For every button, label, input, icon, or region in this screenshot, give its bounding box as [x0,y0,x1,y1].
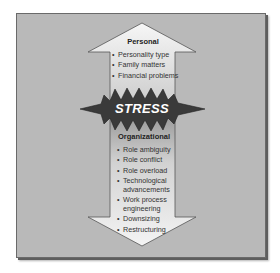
personal-heading: Personal [113,38,173,47]
organizational-heading: Organizational [113,133,175,142]
organizational-list: Role ambiguity Role conflict Role overlo… [117,146,175,235]
list-item: Financial problems [112,72,173,81]
list-item: Personality type [112,51,173,60]
item-text: Restructuring [123,225,166,234]
list-item: Role overload [117,167,175,176]
list-item: Role conflict [117,156,175,165]
list-item: Technologicaladvancements [117,177,175,194]
list-item: Role ambiguity [117,146,175,155]
stress-label: STRESS [100,101,184,116]
list-item: Family matters [112,61,173,70]
item-text: Downsizing [123,214,160,223]
item-text: Role overload [123,166,167,175]
personal-list: Personality type Family matters Financia… [112,51,173,81]
list-item: Restructuring [117,226,175,235]
organizational-group: Organizational Role ambiguity Role confl… [113,133,175,236]
list-item: Work processengineering [117,196,175,213]
item-text: Role ambiguity [123,145,171,154]
list-item: Downsizing [117,215,175,224]
item-text: advancements [123,185,170,194]
personal-group: Personal Personality type Family matters… [113,38,173,82]
item-text: engineering [123,204,161,213]
item-text: Role conflict [123,155,162,164]
